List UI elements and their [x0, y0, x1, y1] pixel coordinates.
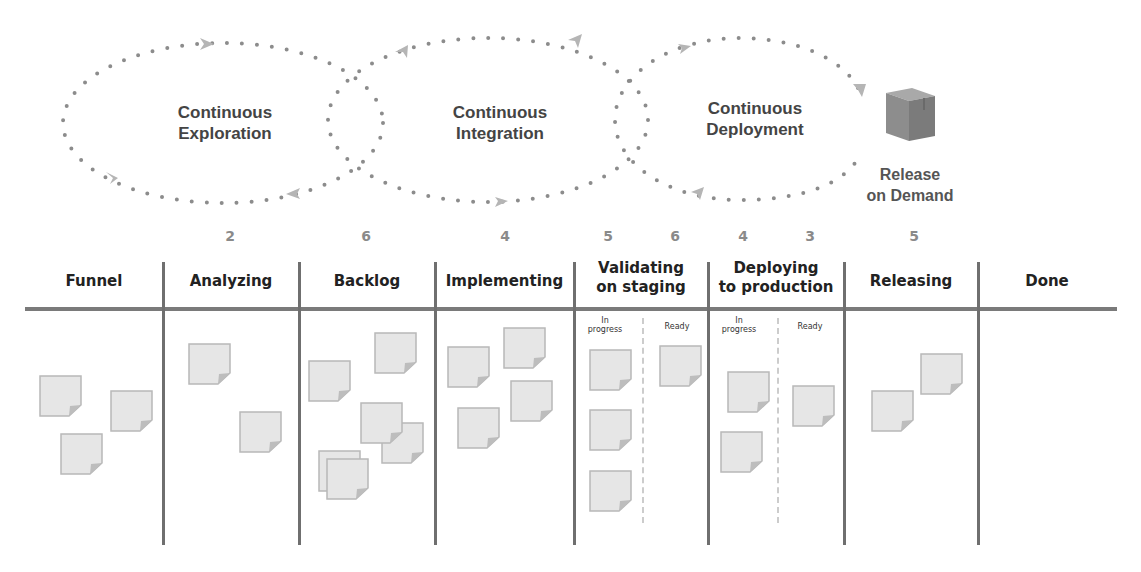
column-divider — [707, 262, 710, 545]
sticky-note[interactable] — [720, 431, 763, 473]
package-cube-icon — [886, 88, 935, 141]
sticky-note[interactable] — [871, 390, 914, 432]
column-divider — [977, 262, 980, 545]
arrow-right-icon — [495, 197, 508, 207]
sticky-note[interactable] — [326, 458, 369, 500]
arrow-upleft-icon — [106, 172, 118, 184]
sticky-note[interactable] — [727, 371, 770, 413]
wip-count-deploying-ready: 3 — [800, 228, 820, 244]
loop-label-integration: Continuous Integration — [425, 102, 575, 144]
wip-count-analyzing: 2 — [220, 228, 240, 244]
sticky-note[interactable] — [39, 375, 82, 417]
sticky-note[interactable] — [374, 332, 417, 374]
column-title-done: Done — [978, 272, 1116, 291]
sub-column-divider — [777, 318, 779, 523]
release-on-demand-label: Release on Demand — [850, 164, 970, 206]
sub-column-title-validating-in-progress: In progress — [580, 316, 630, 334]
sticky-note[interactable] — [589, 349, 632, 391]
column-title-implementing: Implementing — [435, 272, 574, 291]
column-title-deploying: Deploying to production — [708, 259, 844, 297]
wip-count-releasing: 5 — [904, 228, 924, 244]
sub-column-divider — [642, 318, 644, 523]
sticky-note[interactable] — [503, 327, 546, 369]
sticky-note[interactable] — [920, 353, 963, 395]
column-title-releasing: Releasing — [844, 272, 978, 291]
sticky-note[interactable] — [589, 409, 632, 451]
column-divider — [298, 262, 301, 545]
arrow-left-icon — [691, 187, 704, 200]
column-title-analyzing: Analyzing — [163, 272, 299, 291]
column-divider — [434, 262, 437, 545]
board-header-divider — [25, 307, 1117, 311]
sticky-note[interactable] — [447, 346, 490, 388]
sticky-note[interactable] — [659, 345, 702, 387]
column-title-validating: Validating on staging — [574, 259, 708, 297]
column-divider — [843, 262, 846, 545]
sticky-note[interactable] — [188, 343, 231, 385]
wip-count-implementing: 4 — [495, 228, 515, 244]
wip-count-validating-in-progress: 5 — [598, 228, 618, 244]
sticky-note[interactable] — [457, 407, 500, 449]
arrow-left-icon — [568, 34, 582, 48]
column-divider — [162, 262, 165, 545]
sticky-note[interactable] — [60, 433, 103, 475]
sticky-note[interactable] — [589, 470, 632, 512]
sub-column-title-deploying-in-progress: In progress — [714, 316, 764, 334]
column-title-funnel: Funnel — [25, 272, 163, 291]
sticky-note[interactable] — [360, 402, 403, 444]
sticky-note[interactable] — [510, 380, 553, 422]
wip-count-deploying-in-progress: 4 — [733, 228, 753, 244]
sticky-note[interactable] — [110, 390, 153, 432]
wip-count-validating-ready: 6 — [665, 228, 685, 244]
sticky-note[interactable] — [308, 360, 351, 402]
arrow-left-icon — [395, 45, 408, 58]
arrow-down-icon — [853, 84, 866, 97]
sticky-note[interactable] — [792, 385, 835, 427]
arrow-right-icon — [200, 38, 214, 50]
column-title-backlog: Backlog — [299, 272, 435, 291]
loop-label-deployment: Continuous Deployment — [680, 98, 830, 140]
sub-column-title-deploying-ready: Ready — [785, 322, 835, 331]
sticky-note[interactable] — [239, 411, 282, 453]
column-divider — [573, 262, 576, 545]
loop-label-exploration: Continuous Exploration — [150, 102, 300, 144]
sub-column-title-validating-ready: Ready — [652, 322, 702, 331]
wip-count-backlog: 6 — [356, 228, 376, 244]
